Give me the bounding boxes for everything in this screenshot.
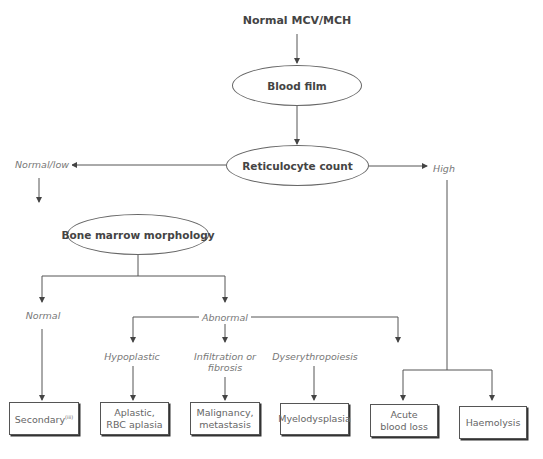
- aplastic-line1: Aplastic,: [114, 407, 155, 418]
- outcome-myelodysplasia: Myelodysplasia: [280, 403, 349, 435]
- blood-film-node: Blood film: [232, 65, 362, 106]
- outcome-acute-blood-loss: Acuteblood loss: [370, 404, 438, 437]
- secondary-footnote: (iii): [65, 414, 73, 420]
- outcome-aplastic: Aplastic,RBC aplasia: [100, 402, 169, 435]
- normal-label: Normal: [23, 310, 64, 321]
- haemolysis-text: Haemolysis: [466, 417, 521, 429]
- abnormal-label: Abnormal: [199, 312, 251, 323]
- secondary-text: Secondary(iii): [15, 412, 73, 426]
- blood-film-label: Blood film: [267, 80, 327, 92]
- hypoplastic-label: Hypoplastic: [101, 351, 163, 362]
- bone-marrow-label: Bone marrow morphology: [61, 229, 214, 241]
- high-label: High: [430, 163, 458, 174]
- outcome-malignancy: Malignancy,metastasis: [190, 402, 260, 435]
- infiltration-line2: fibrosis: [194, 362, 256, 373]
- bone-marrow-node: Bone marrow morphology: [67, 214, 209, 255]
- outcome-haemolysis: Haemolysis: [459, 406, 527, 439]
- malignancy-line1: Malignancy,: [196, 407, 253, 418]
- normal-low-label: Normal/low: [12, 159, 72, 170]
- acute-line1: Acute: [390, 409, 417, 420]
- infiltration-label: Infiltration or fibrosis: [191, 351, 259, 373]
- dyserythropoiesis-label: Dyserythropoiesis: [269, 351, 361, 362]
- aplastic-line2: RBC aplasia: [106, 419, 162, 430]
- malignancy-line2: metastasis: [199, 419, 251, 430]
- reticulocyte-count-label: Reticulocyte count: [242, 160, 353, 172]
- myelodysplasia-text: Myelodysplasia: [278, 413, 351, 425]
- reticulocyte-count-node: Reticulocyte count: [226, 145, 369, 186]
- acute-line2: blood loss: [380, 421, 428, 432]
- start-node: Normal MCV/MCH: [243, 14, 351, 27]
- infiltration-line1: Infiltration or: [194, 351, 256, 362]
- outcome-secondary: Secondary(iii): [9, 402, 79, 435]
